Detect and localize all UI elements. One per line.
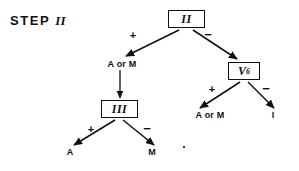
terminal-m: M	[148, 148, 156, 157]
terminal-a: A	[67, 148, 74, 157]
edge-sign-iii-minus: −	[143, 122, 151, 135]
node-box-ii[interactable]: II	[168, 10, 205, 28]
edge-three-to-a	[74, 120, 115, 145]
step-title-numeral: II	[55, 13, 65, 28]
step-ii-decision-tree-diagram: STEP II II V6 III A or M A or M I A M + …	[0, 0, 299, 171]
edge-sign-v6-minus: −	[262, 82, 270, 95]
label-a-or-m-lower: A or M	[196, 111, 225, 120]
edge-sign-root-plus: +	[130, 30, 136, 41]
label-a-or-m-upper: A or M	[108, 60, 137, 69]
node-box-iii[interactable]: III	[101, 100, 138, 118]
node-box-v6[interactable]: V6	[228, 62, 260, 80]
node-box-v6-label: V	[238, 64, 246, 79]
node-box-iii-label: III	[112, 102, 128, 117]
page-title: STEP II	[10, 14, 65, 27]
ink-speck	[183, 146, 185, 148]
edge-sign-iii-plus: +	[88, 124, 94, 135]
node-box-v6-subscript: 6	[246, 67, 250, 76]
edge-sign-root-minus: −	[204, 28, 212, 41]
step-title-word: STEP	[10, 13, 50, 28]
edge-sign-v6-plus: +	[209, 84, 215, 95]
node-box-ii-label: II	[181, 12, 191, 27]
terminal-i: I	[272, 111, 275, 120]
edge-root-to-v6	[193, 30, 237, 59]
edge-v6-to-aorm	[200, 82, 240, 108]
